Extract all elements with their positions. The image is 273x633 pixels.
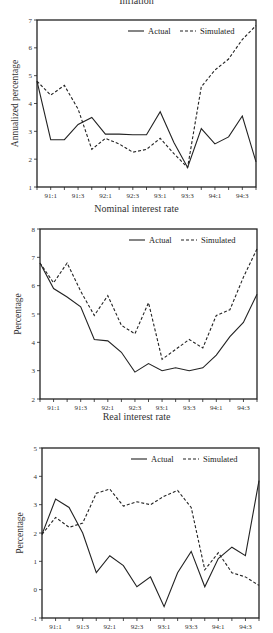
y-tick-label: 4 <box>34 473 38 481</box>
x-tick-label: 91:1 <box>49 623 62 631</box>
chart-stack: 123456791:191:392:192:393:193:394:194:3A… <box>0 0 273 633</box>
x-tick-label: 94:3 <box>237 404 250 412</box>
plot-frame <box>42 448 259 618</box>
x-tick-label: 93:1 <box>156 404 169 412</box>
legend: ActualSimulated <box>129 235 236 245</box>
y-tick-label: 3 <box>29 128 33 136</box>
x-tick-label: 94:1 <box>212 623 225 631</box>
x-tick-label: 93:3 <box>185 623 198 631</box>
y-tick-label: 6 <box>32 282 36 290</box>
x-tick-label: 93:3 <box>183 404 196 412</box>
y-tick-label: 1 <box>29 184 33 192</box>
plot-frame <box>40 229 257 399</box>
x-tick-label: 94:3 <box>236 192 249 200</box>
y-tick-label: 4 <box>32 339 36 347</box>
y-tick-label: 7 <box>29 17 33 25</box>
x-tick-label: 94:1 <box>210 404 223 412</box>
y-tick-label: 2 <box>29 156 33 164</box>
series-actual-line <box>42 481 259 607</box>
y-tick-label: 1 <box>34 558 38 566</box>
x-tick-label: 92:1 <box>99 192 112 200</box>
y-axis-title: Annualized percentage <box>10 60 20 147</box>
x-tick-label: 92:3 <box>127 192 140 200</box>
x-tick-label: 91:3 <box>72 192 85 200</box>
y-tick-label: 6 <box>29 44 33 52</box>
legend-actual-label: Actual <box>149 235 172 245</box>
x-tick-label: 91:3 <box>76 623 89 631</box>
x-tick-label: 91:3 <box>74 404 87 412</box>
legend: ActualSimulated <box>128 26 235 36</box>
y-tick-label: -1 <box>31 615 37 623</box>
y-tick-label: 4 <box>29 100 33 108</box>
x-tick-label: 94:3 <box>239 623 252 631</box>
y-tick-label: 5 <box>32 311 36 319</box>
y-tick-label: 0 <box>34 586 38 594</box>
legend-simulated-label: Simulated <box>203 454 238 464</box>
series-actual-line <box>40 263 257 372</box>
chart-real-interest-rate: -101234591:191:392:192:393:193:394:194:3… <box>15 445 259 632</box>
x-tick-label: 92:3 <box>131 623 144 631</box>
series-simulated-line <box>37 26 256 168</box>
plot-frame <box>37 20 256 187</box>
y-tick-label: 3 <box>32 367 36 375</box>
series-simulated-line <box>42 489 259 585</box>
x-tick-label: 92:3 <box>129 404 142 412</box>
y-tick-label: 2 <box>34 530 38 538</box>
legend-actual-label: Actual <box>148 26 171 36</box>
y-axis-title: Percentage <box>13 293 23 335</box>
series-simulated-line <box>40 249 257 359</box>
x-tick-label: 93:1 <box>158 623 171 631</box>
legend-simulated-label: Simulated <box>200 26 235 36</box>
x-tick-label: 92:1 <box>102 404 115 412</box>
legend-simulated-label: Simulated <box>201 235 236 245</box>
y-tick-label: 8 <box>32 226 36 234</box>
y-tick-label: 2 <box>32 396 36 404</box>
x-tick-label: 91:1 <box>44 192 57 200</box>
y-tick-label: 3 <box>34 501 38 509</box>
legend-actual-label: Actual <box>151 454 174 464</box>
x-tick-label: 94:1 <box>209 192 222 200</box>
x-tick-label: 93:3 <box>181 192 194 200</box>
x-tick-label: 92:1 <box>104 623 117 631</box>
y-tick-label: 5 <box>29 72 33 80</box>
y-tick-label: 7 <box>32 254 36 262</box>
chart-nominal-interest-rate: 234567891:191:392:192:393:193:394:194:3P… <box>13 226 257 413</box>
y-axis-title: Percentage <box>15 512 25 554</box>
y-tick-label: 5 <box>34 445 38 453</box>
x-tick-label: 91:1 <box>47 404 60 412</box>
x-tick-label: 93:1 <box>154 192 167 200</box>
chart-inflation: 123456791:191:392:192:393:193:394:194:3A… <box>10 17 256 201</box>
legend: ActualSimulated <box>131 454 238 464</box>
